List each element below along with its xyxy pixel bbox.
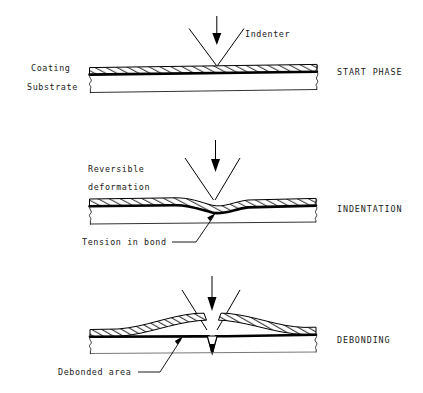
break-symbol-left-2 <box>89 206 91 225</box>
stage-label-debonding: DEBONDING <box>337 335 390 345</box>
load-arrow-icon-3 <box>208 276 217 311</box>
indenter-tip-icon-3 <box>182 290 240 330</box>
coating-layer-3-left <box>90 313 207 336</box>
stage-label-indentation: INDENTATION <box>337 204 402 214</box>
load-arrow-icon <box>212 16 221 45</box>
break-symbol-right-3 <box>315 334 317 352</box>
substrate-layer-3 <box>90 352 316 354</box>
reversible-label-line1: Reversible <box>88 164 144 174</box>
indentation-debonding-figure: Coating Substrate Indenter START PHASE <box>0 0 423 393</box>
tension-in-bond-label: Tension in bond <box>82 237 167 247</box>
break-symbol-left <box>89 74 91 93</box>
coating-layer-3-right <box>219 313 317 334</box>
figure-svg: Coating Substrate Indenter START PHASE <box>0 0 423 393</box>
debonded-area-label: Debonded area <box>58 367 131 377</box>
load-arrow-icon-2 <box>211 140 220 172</box>
bond-interface-line-3 <box>90 335 316 352</box>
panel-indentation: Reversible deformation Tension in bond I… <box>82 140 402 247</box>
reversible-label-line2: deformation <box>88 182 150 192</box>
substrate-layer-2 <box>90 222 316 224</box>
substrate-label: Substrate <box>27 82 78 92</box>
substrate-layer <box>90 90 317 93</box>
coating-label: Coating <box>31 63 71 73</box>
debonded-area-leader-line <box>138 336 184 372</box>
break-symbol-left-3 <box>89 337 91 355</box>
panel-debonding: Debonded area DEBONDING <box>58 276 390 377</box>
indenter-label: Indenter <box>245 29 290 39</box>
panel-start-phase: Coating Substrate Indenter START PHASE <box>27 16 402 93</box>
tension-leader-line <box>172 213 216 242</box>
indenter-tip-icon-2 <box>185 158 240 200</box>
stage-label-start-phase: START PHASE <box>337 67 402 77</box>
